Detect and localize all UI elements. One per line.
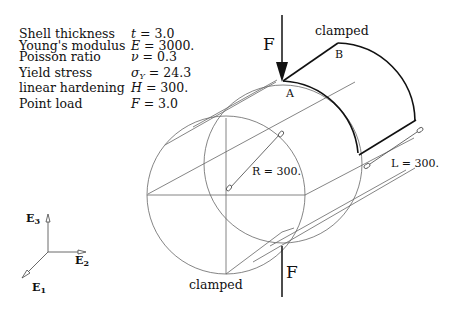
back-arc	[338, 43, 415, 121]
axis-e3-label: E3	[26, 212, 40, 226]
clamped-label-bottom: clamped	[189, 277, 243, 292]
clamped-label-top: clamped	[315, 23, 369, 38]
edge-a-b	[283, 43, 338, 81]
mid-section-circle	[204, 85, 362, 243]
radius-dimension	[230, 134, 280, 188]
pinched-cylinder-diagram: Shell thickness t = 3.0 Young's modulus …	[0, 0, 452, 311]
param-row: Poisson ratio ν = 0.3	[19, 51, 201, 63]
param-row: Point load F = 3.0	[19, 98, 201, 110]
axis-e1-label: E1	[32, 281, 46, 295]
point-b-label: B	[335, 48, 343, 61]
param-row: linear hardening H = 300.	[19, 82, 201, 94]
edge-right	[359, 120, 416, 155]
length-label: L = 300.	[391, 157, 439, 170]
point-a-label: A	[286, 87, 294, 100]
force-label-top: F	[263, 34, 275, 54]
parameter-table: Shell thickness t = 3.0 Young's modulus …	[19, 28, 201, 109]
axis-e2-label: E2	[75, 254, 89, 268]
radius-label: R = 300.	[252, 165, 301, 178]
generator-bottom	[253, 168, 415, 262]
force-label-bottom: F	[286, 262, 298, 282]
